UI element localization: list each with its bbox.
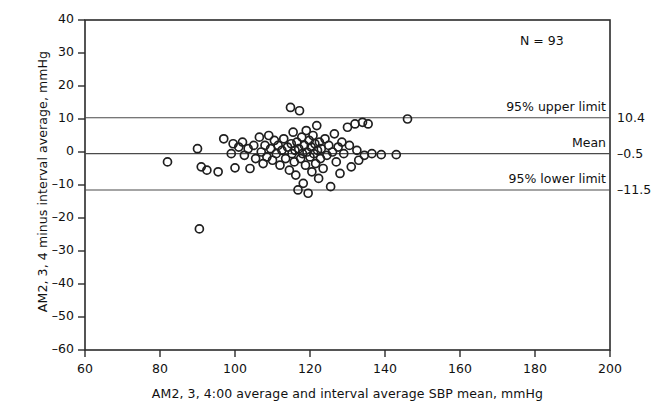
scatter-point (302, 161, 310, 169)
scatter-point (289, 128, 297, 136)
reference-line-label: Mean (416, 135, 606, 150)
x-axis-tick-label: 80 (135, 361, 185, 376)
y-axis-tick-label: –20 (34, 209, 74, 224)
x-axis-tick-label: 200 (585, 361, 635, 376)
scatter-point (195, 225, 203, 233)
y-axis-tick-label: 0 (34, 143, 74, 158)
scatter-point (345, 141, 353, 149)
x-axis-title: AM2, 3, 4:00 average and interval averag… (85, 386, 610, 401)
scatter-point (220, 135, 228, 143)
scatter-point (312, 160, 320, 168)
sample-size-annotation: N = 93 (520, 33, 564, 48)
scatter-point (296, 107, 304, 115)
scatter-point (194, 145, 202, 153)
x-axis-tick-label: 180 (510, 361, 560, 376)
reference-line-value: 10.4 (617, 110, 669, 125)
y-axis-tick-label: –40 (34, 275, 74, 290)
y-axis-tick-label: –50 (34, 308, 74, 323)
reference-line-label: 95% lower limit (416, 171, 606, 186)
scatter-point (332, 158, 340, 166)
x-axis-tick-label: 140 (360, 361, 410, 376)
scatter-point (404, 115, 412, 123)
scatter-point (292, 171, 300, 179)
scatter-point (347, 163, 355, 171)
scatter-point (287, 103, 295, 111)
bland-altman-figure: AM2, 3, 4 minus interval average, mmHg A… (0, 0, 669, 419)
y-axis-tick-label: 10 (34, 110, 74, 125)
y-axis-tick-label: 30 (34, 44, 74, 59)
scatter-point (299, 179, 307, 187)
scatter-point (255, 133, 263, 141)
scatter-point (315, 174, 323, 182)
x-axis-tick-label: 100 (210, 361, 260, 376)
scatter-point (214, 168, 222, 176)
scatter-point (319, 165, 327, 173)
scatter-point (246, 165, 254, 173)
scatter-plot-canvas (0, 0, 669, 419)
scatter-point (280, 135, 288, 143)
y-axis-tick-label: –10 (34, 176, 74, 191)
x-axis-tick-label: 120 (285, 361, 335, 376)
scatter-point (336, 169, 344, 177)
scatter-point (377, 151, 385, 159)
scatter-point (231, 164, 239, 172)
y-axis-tick-label: 20 (34, 77, 74, 92)
reference-line-value: –0.5 (617, 146, 669, 161)
y-axis-tick-label: –60 (34, 341, 74, 356)
reference-line-value: –11.5 (617, 182, 669, 197)
y-axis-tick-label: 40 (34, 11, 74, 26)
reference-line-label: 95% upper limit (416, 99, 606, 114)
y-axis-tick-label: –30 (34, 242, 74, 257)
scatter-point (308, 168, 316, 176)
scatter-point (164, 158, 172, 166)
scatter-point (313, 122, 321, 130)
scatter-point (330, 130, 338, 138)
x-axis-tick-label: 60 (60, 361, 110, 376)
scatter-point (392, 151, 400, 159)
x-axis-tick-label: 160 (435, 361, 485, 376)
